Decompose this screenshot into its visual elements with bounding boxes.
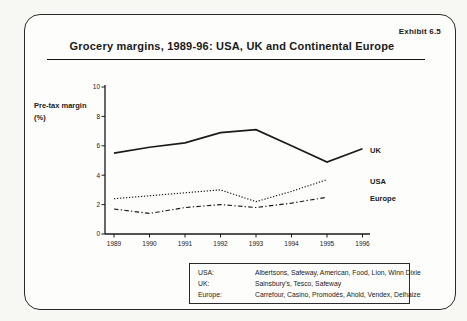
x-tick-label-1996: 1996 — [355, 240, 370, 247]
title-underline — [47, 59, 425, 60]
legend-row-uk-label: UK: — [198, 280, 255, 287]
series-line-europe — [114, 197, 327, 213]
legend-row-uk-text: Sainsbury's, Tesco, Safeway — [255, 280, 341, 287]
y-axis-label-line2: (%) — [34, 113, 46, 122]
line-chart: 024681019891990199119921993199419951996U… — [89, 79, 459, 251]
exhibit-page: Exhibit 6.5 Grocery margins, 1989-96: US… — [0, 0, 467, 321]
series-line-uk — [114, 130, 363, 162]
y-tick-label-4: 4 — [96, 172, 100, 179]
legend-row-europe-text: Carrefour, Casino, Promodès, Ahold, Vend… — [255, 291, 421, 298]
chart-title: Grocery margins, 1989-96: USA, UK and Co… — [25, 40, 439, 52]
x-tick-label-1994: 1994 — [284, 240, 299, 247]
y-axis-label-line1: Pre-tax margin — [34, 101, 87, 110]
y-tick-label-6: 6 — [96, 142, 100, 149]
y-axis-label: Pre-tax margin (%) — [34, 100, 87, 123]
series-label-usa: USA — [370, 177, 386, 186]
legend-row-usa: USA:Albertsons, Safeway, American, Food,… — [198, 269, 405, 276]
x-tick-label-1992: 1992 — [213, 240, 228, 247]
legend-row-europe-label: Europe: — [198, 291, 255, 298]
legend-row-usa-label: USA: — [198, 269, 255, 276]
legend-row-uk: UK:Sainsbury's, Tesco, Safeway — [198, 280, 405, 287]
x-tick-label-1989: 1989 — [107, 240, 122, 247]
legend-row-usa-text: Albertsons, Safeway, American, Food, Lio… — [255, 269, 421, 276]
series-line-usa — [114, 180, 327, 202]
source-legend-box: USA:Albertsons, Safeway, American, Food,… — [189, 263, 410, 304]
y-tick-label-10: 10 — [93, 83, 101, 90]
x-tick-label-1991: 1991 — [178, 240, 193, 247]
y-tick-label-0: 0 — [96, 230, 100, 237]
y-tick-label-2: 2 — [96, 201, 100, 208]
x-tick-label-1995: 1995 — [320, 240, 335, 247]
y-tick-label-8: 8 — [96, 113, 100, 120]
legend-row-europe: Europe:Carrefour, Casino, Promodès, Ahol… — [198, 291, 405, 298]
exhibit-card: Exhibit 6.5 Grocery margins, 1989-96: US… — [24, 14, 456, 310]
series-label-uk: UK — [370, 146, 381, 155]
x-tick-label-1993: 1993 — [249, 240, 264, 247]
exhibit-number-label: Exhibit 6.5 — [399, 27, 441, 36]
x-tick-label-1990: 1990 — [142, 240, 157, 247]
series-label-europe: Europe — [370, 194, 396, 203]
